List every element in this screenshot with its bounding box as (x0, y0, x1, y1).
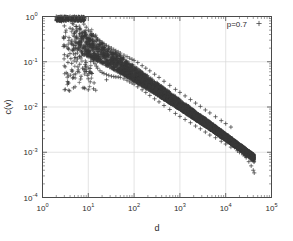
scatter-plot-figure: 100101102103104105 10010-110-210-310-4 d… (0, 0, 293, 241)
x-axis-title: d (154, 223, 159, 233)
legend-label-p: p=0.7 (227, 20, 248, 29)
y-axis-title: c(v) (3, 100, 13, 115)
